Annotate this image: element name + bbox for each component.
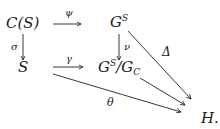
label-delta: Δ	[162, 46, 171, 58]
arrow-quotient-to-h	[140, 78, 185, 105]
node-quotient-slash: /G	[116, 58, 133, 76]
commutative-diagram: C(S) GS S GS/GC H. ψ σ ν γ Δ θ	[0, 0, 220, 129]
node-quotient-base: G	[98, 58, 110, 76]
node-quotient: GS/GC	[98, 60, 140, 75]
node-gs-base: G	[110, 13, 122, 31]
node-quotient-sup: S	[110, 58, 116, 68]
node-gs: GS	[110, 15, 128, 30]
label-sigma: σ	[11, 42, 18, 52]
node-gs-sup: S	[122, 13, 128, 23]
node-h: H.	[201, 111, 219, 126]
node-s: S	[18, 60, 28, 75]
label-nu: ν	[124, 42, 130, 52]
label-psi: ψ	[65, 8, 73, 18]
label-gamma: γ	[66, 54, 72, 64]
label-theta: θ	[107, 97, 114, 108]
node-cs: C(S)	[6, 16, 39, 31]
node-quotient-sub: C	[133, 67, 140, 77]
arrow-theta	[53, 74, 181, 112]
